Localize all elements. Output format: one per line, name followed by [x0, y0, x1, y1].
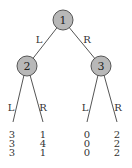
edge-n2-right — [30, 75, 43, 122]
payoff-value: 3 — [9, 147, 15, 158]
edge-label-root-right: R — [83, 34, 91, 45]
edge-n3-left — [87, 75, 98, 122]
payoff-value: 1 — [40, 147, 46, 158]
payoff-value: 2 — [114, 147, 120, 158]
edge-n2-left — [13, 75, 24, 122]
edge-n3-right — [104, 75, 117, 122]
edge-label-n2-left: L — [8, 102, 15, 113]
payoff-column-4: 2 2 2 — [114, 129, 120, 158]
payoff-column-3: 0 0 0 — [84, 129, 90, 158]
node-3-label: 3 — [98, 60, 105, 73]
payoff-column-2: 1 4 1 — [40, 129, 46, 158]
game-tree-diagram: 1 2 3 L R L R L R 3 3 3 1 4 1 0 0 0 2 2 … — [0, 0, 132, 168]
node-2: 2 — [17, 56, 37, 76]
node-3: 3 — [91, 56, 111, 76]
edge-label-n3-right: R — [114, 102, 122, 113]
edge-label-n3-left: L — [82, 102, 89, 113]
node-1-label: 1 — [60, 14, 67, 27]
edge-label-n2-right: R — [39, 102, 47, 113]
payoff-value: 0 — [84, 147, 90, 158]
payoff-column-1: 3 3 3 — [9, 129, 15, 158]
node-1: 1 — [53, 10, 73, 30]
node-2-label: 2 — [24, 60, 31, 73]
edge-label-root-left: L — [36, 34, 43, 45]
